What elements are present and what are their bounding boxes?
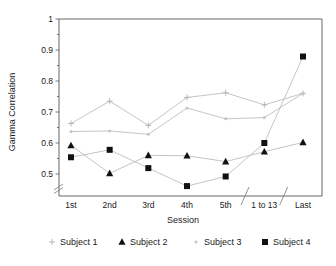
legend-dot-marker-icon [195, 241, 198, 244]
data-point-subject-2 [145, 152, 152, 159]
series-line-subject-4 [71, 57, 303, 187]
x-axis-tick-label: 1st [65, 200, 77, 210]
data-point-subject-4 [300, 54, 306, 60]
gamma-correlation-line-chart: 0.50.60.70.80.91 1st2nd3rd4th5th1 to 13L… [0, 0, 336, 266]
y-axis-tick-label: 0.6 [41, 138, 53, 148]
legend-label-subject-2: Subject 2 [130, 237, 168, 247]
data-point-subject-3 [147, 133, 150, 136]
data-point-subject-4 [261, 140, 267, 146]
x-axis-tick-label: 1 to 13 [251, 200, 277, 210]
data-point-subject-1 [145, 122, 151, 128]
y-axis-break-mark [54, 184, 63, 190]
data-point-subject-4 [223, 173, 229, 179]
data-point-subject-2 [67, 142, 74, 149]
x-axis-title: Session [167, 215, 199, 225]
data-point-subject-3 [224, 117, 227, 120]
x-axis-tick-label: 2nd [103, 200, 117, 210]
data-point-subject-3 [302, 92, 305, 95]
series-lines-group [71, 57, 303, 187]
data-point-subject-3 [186, 106, 189, 109]
legend-label-subject-4: Subject 4 [273, 237, 311, 247]
legend-triangle-marker-icon [118, 238, 125, 245]
y-axis-tick-label: 0.8 [41, 76, 53, 86]
y-axis-tick-label: 1 [48, 14, 53, 24]
data-point-subject-4 [68, 154, 74, 160]
legend-square-marker-icon [262, 239, 268, 245]
legend-label-subject-1: Subject 1 [60, 237, 98, 247]
data-point-subject-4 [107, 147, 113, 153]
x-axis-tick-label: 3rd [142, 200, 155, 210]
data-point-subject-4 [184, 183, 190, 189]
data-point-subject-2 [106, 170, 113, 177]
legend-label-subject-3: Subject 3 [204, 237, 242, 247]
y-axis-tick-label: 0.5 [41, 169, 53, 179]
chart-svg: 0.50.60.70.80.91 1st2nd3rd4th5th1 to 13L… [0, 0, 336, 266]
x-axis-tick-label: 4th [181, 200, 193, 210]
data-point-subject-1 [223, 90, 229, 96]
y-axis-tick-marks [56, 19, 60, 174]
y-axis-tick-labels: 0.50.60.70.80.91 [41, 14, 53, 179]
data-point-subject-1 [107, 98, 113, 104]
y-axis-tick-label: 0.7 [41, 107, 53, 117]
data-point-subject-1 [184, 94, 190, 100]
data-point-subject-4 [145, 165, 151, 171]
legend-plus-marker-icon [49, 239, 55, 245]
x-axis-tick-label: 5th [220, 200, 232, 210]
data-point-subject-2 [183, 152, 190, 159]
data-point-subject-2 [299, 139, 306, 146]
data-point-subject-3 [108, 129, 111, 132]
y-axis-break-mark [54, 188, 63, 194]
data-point-subject-3 [263, 116, 266, 119]
x-axis-tick-label: Last [295, 200, 312, 210]
data-point-subject-1 [261, 102, 267, 108]
x-axis-tick-labels: 1st2nd3rd4th5th1 to 13Last [65, 200, 311, 210]
data-point-subject-1 [68, 120, 74, 126]
data-point-subject-3 [70, 130, 73, 133]
chart-legend: Subject 1Subject 2Subject 3Subject 4 [49, 237, 311, 247]
y-axis-tick-label: 0.9 [41, 45, 53, 55]
y-axis-title: Gamma Correlation [7, 73, 17, 152]
